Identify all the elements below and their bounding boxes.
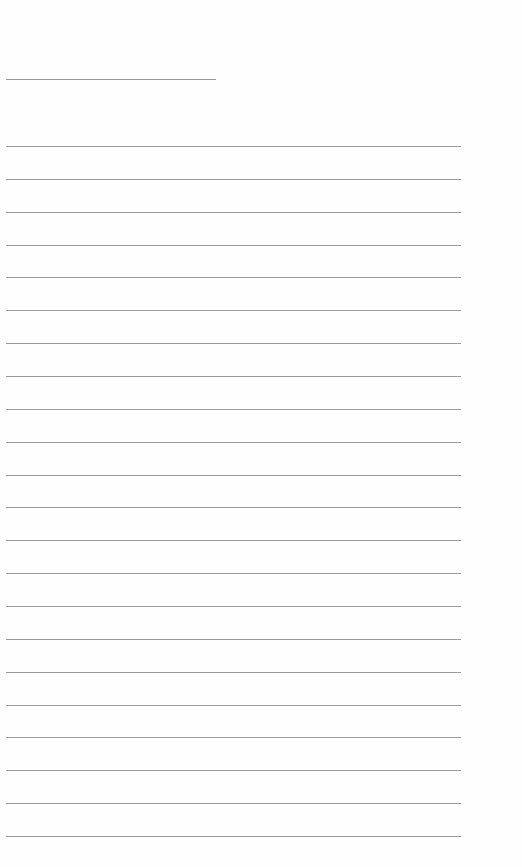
- lined-paper-page: [0, 0, 522, 867]
- ruled-line: [6, 606, 461, 607]
- ruled-line: [6, 310, 461, 311]
- ruled-line: [6, 343, 461, 344]
- ruled-line: [6, 836, 461, 837]
- ruled-line: [6, 212, 461, 213]
- ruled-line: [6, 573, 461, 574]
- ruled-line: [6, 409, 461, 410]
- ruled-line: [6, 540, 461, 541]
- ruled-line: [6, 803, 461, 804]
- ruled-line: [6, 770, 461, 771]
- ruled-line: [6, 179, 461, 180]
- ruled-line: [6, 672, 461, 673]
- ruled-line: [6, 146, 461, 147]
- ruled-line: [6, 507, 461, 508]
- ruled-line: [6, 737, 461, 738]
- ruled-line: [6, 705, 461, 706]
- ruled-line: [6, 277, 461, 278]
- header-name-line: [6, 79, 216, 80]
- ruled-line: [6, 376, 461, 377]
- ruled-line: [6, 475, 461, 476]
- ruled-line: [6, 639, 461, 640]
- ruled-line: [6, 442, 461, 443]
- ruled-line: [6, 245, 461, 246]
